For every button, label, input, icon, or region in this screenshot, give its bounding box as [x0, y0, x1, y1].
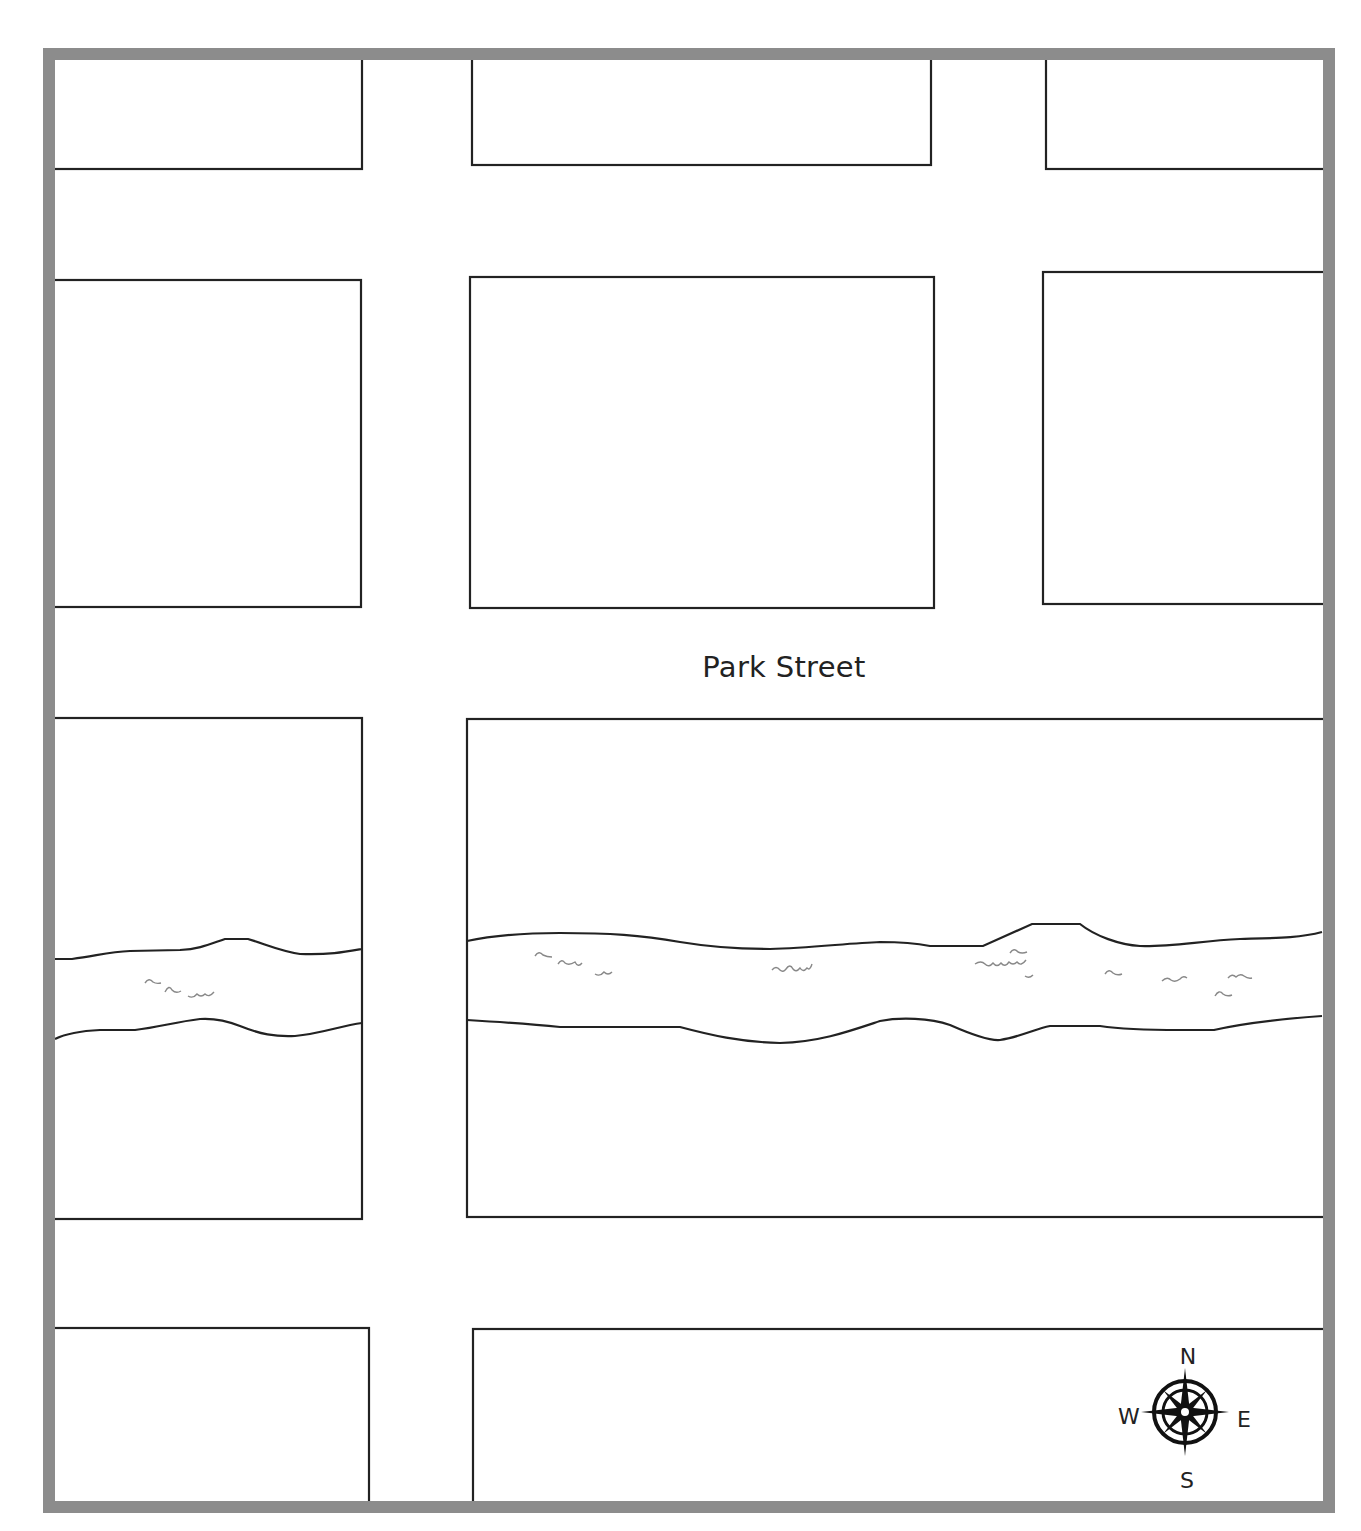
river-right — [467, 924, 1322, 1043]
city-block — [473, 1329, 1346, 1529]
compass-west-label: W — [1118, 1404, 1140, 1429]
compass-rose-icon — [1141, 1368, 1229, 1456]
city-block — [467, 719, 1346, 1217]
city-block — [1043, 272, 1346, 604]
city-block — [40, 1328, 369, 1528]
city-block — [40, 718, 362, 1219]
compass-east-label: E — [1237, 1407, 1251, 1432]
compass-south-label: S — [1180, 1468, 1194, 1493]
city-block — [472, 40, 931, 165]
city-block — [40, 40, 362, 169]
street-label-park-street: Park Street — [702, 650, 865, 684]
city-block — [40, 280, 361, 607]
river-left — [55, 939, 362, 1039]
city-block — [1046, 40, 1346, 169]
street-map — [0, 0, 1361, 1531]
city-block — [470, 277, 934, 608]
compass-north-label: N — [1180, 1344, 1196, 1369]
